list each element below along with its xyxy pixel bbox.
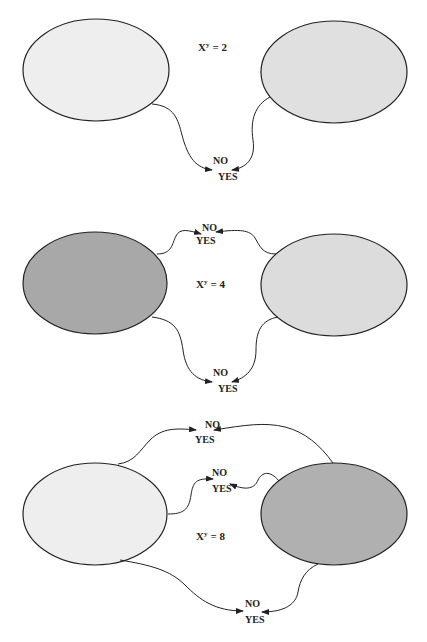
bottom-node-no-label: NO [213, 367, 228, 378]
node-yes-label: YES [218, 171, 238, 182]
edge-left-to-bottom-node [120, 560, 243, 611]
equation: Xy= 4 [196, 278, 225, 290]
bottom-node-yes-label: YES [245, 614, 265, 625]
equation: Xy= 8 [196, 530, 225, 542]
edge-left-to-top-node [118, 429, 196, 464]
edge-right-to-top-node [214, 424, 333, 463]
right-ellipse [261, 21, 407, 123]
left-ellipse [23, 232, 167, 334]
top-node-no-label: NO [205, 419, 220, 430]
left-ellipse [23, 463, 167, 565]
edge-right-to-middle-node [230, 473, 279, 488]
node-no-label: NO [213, 155, 228, 166]
edge-left-to-node [152, 104, 212, 170]
left-ellipse [23, 19, 169, 121]
top-node-yes-label: YES [196, 235, 216, 246]
edge-right-to-node [232, 97, 270, 170]
panel-1: Xy= 2 NO YES [23, 19, 407, 182]
top-node-yes-label: YES [195, 434, 215, 445]
edge-right-to-top-node [216, 230, 276, 254]
edge-left-to-bottom-node [152, 317, 212, 382]
equation: Xy= 2 [198, 41, 227, 53]
edge-left-to-middle-node [168, 479, 213, 514]
bottom-node-yes-label: YES [218, 383, 238, 394]
right-ellipse [261, 234, 407, 336]
panel-2: Xy= 4 NO YES NO YES [23, 222, 407, 394]
bottom-node-no-label: NO [245, 598, 260, 609]
middle-node-no-label: NO [212, 467, 227, 478]
edge-left-to-top-node [157, 231, 201, 255]
panel-3: Xy= 8 NO YES NO YES NO YES [23, 419, 407, 625]
right-ellipse [261, 463, 407, 565]
middle-node-yes-label: YES [212, 483, 232, 494]
edge-right-to-bottom-node [262, 564, 318, 612]
top-node-no-label: NO [202, 222, 217, 233]
diagram-canvas: Xy= 2 NO YES Xy= 4 NO YES NO YES Xy= 8 N… [0, 0, 427, 642]
edge-right-to-bottom-node [232, 317, 278, 382]
